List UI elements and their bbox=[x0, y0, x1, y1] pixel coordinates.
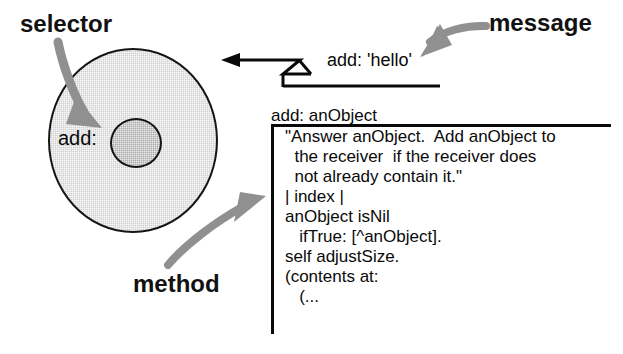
method-source-line: self adjustSize. bbox=[285, 247, 615, 267]
method-source-line: | index | bbox=[285, 187, 615, 207]
method-source-line: "Answer anObject. Add anObject to bbox=[285, 127, 615, 147]
method-header-text: add: anObject bbox=[271, 107, 377, 124]
method-source-line: anObject isNil bbox=[285, 207, 615, 227]
message-callout-label: message bbox=[489, 11, 592, 35]
method-source-body: "Answer anObject. Add anObject to the re… bbox=[285, 127, 615, 307]
selector-label-in-circle: add: bbox=[58, 128, 97, 148]
diagram-canvas: add: selector message method add: 'hello… bbox=[0, 0, 623, 354]
curved-arrow-left-icon bbox=[420, 24, 486, 58]
selector-inner-circle bbox=[110, 118, 162, 168]
method-source-line: the receiver if the receiver does bbox=[285, 147, 615, 167]
method-callout-label: method bbox=[133, 272, 220, 296]
selector-callout-label: selector bbox=[20, 12, 112, 36]
method-source-line: (contents at: bbox=[285, 267, 615, 287]
method-source-line: not already contain it." bbox=[285, 167, 615, 187]
method-source-line: (... bbox=[285, 287, 615, 307]
message-expression-text: add: 'hello' bbox=[327, 51, 412, 69]
method-source-line: ifTrue: [^anObject]. bbox=[285, 227, 615, 247]
